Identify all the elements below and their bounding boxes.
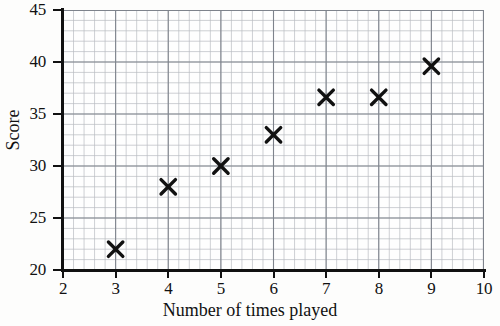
data-point-marker	[424, 59, 438, 73]
x-axis-tick	[62, 269, 64, 278]
x-axis-tick	[273, 269, 275, 278]
y-axis-tick	[53, 61, 64, 63]
x-axis-tick	[483, 269, 485, 278]
y-axis-line	[61, 8, 64, 272]
plot-area	[63, 10, 484, 270]
x-axis-tick	[115, 269, 117, 278]
data-point-marker	[214, 159, 228, 173]
x-axis-tick-label: 8	[359, 280, 399, 297]
x-axis-tick-label: 5	[201, 280, 241, 297]
y-axis-tick	[53, 9, 64, 11]
data-point-marker	[266, 128, 280, 142]
y-axis-tick	[53, 113, 64, 115]
data-point-marker	[108, 242, 122, 256]
x-axis-tick-label: 3	[96, 280, 136, 297]
x-axis-tick	[220, 269, 222, 278]
x-axis-title: Number of times played	[0, 300, 500, 320]
x-axis-tick-label: 7	[306, 280, 346, 297]
x-axis-tick-label: 2	[43, 280, 83, 297]
data-point-marker	[319, 90, 333, 104]
x-axis-tick-label: 9	[411, 280, 451, 297]
y-axis-tick-label: 45	[6, 1, 46, 18]
y-axis-tick-label: 40	[6, 53, 46, 70]
x-axis-tick-label: 6	[254, 280, 294, 297]
x-axis-tick-label: 4	[148, 280, 188, 297]
x-axis-tick	[430, 269, 432, 278]
x-axis-tick	[167, 269, 169, 278]
y-axis-tick-label: 20	[6, 261, 46, 278]
data-point-marker	[372, 90, 386, 104]
data-points-layer	[63, 10, 484, 270]
x-axis-tick	[325, 269, 327, 278]
y-axis-tick	[53, 217, 64, 219]
scatter-plot-figure: 202530354045 2345678910 Number of times …	[0, 0, 500, 326]
x-axis-tick-label: 10	[464, 280, 500, 297]
x-axis-tick	[378, 269, 380, 278]
y-axis-title: Score	[3, 95, 23, 165]
y-axis-tick-label: 25	[6, 209, 46, 226]
data-point-marker	[161, 180, 175, 194]
y-axis-tick	[53, 165, 64, 167]
